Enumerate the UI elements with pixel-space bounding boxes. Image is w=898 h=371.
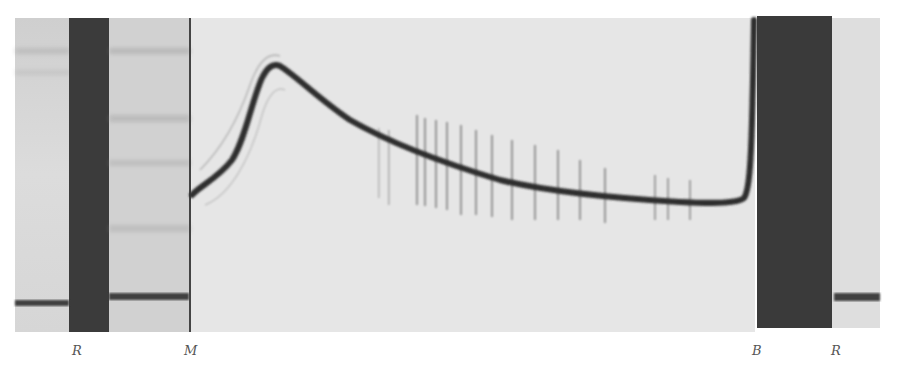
rm-level-line	[109, 293, 189, 300]
label-r-left: R	[72, 343, 82, 358]
right-strip	[832, 18, 880, 328]
label-b: B	[752, 343, 762, 358]
boundary-bar-r-left	[69, 18, 109, 332]
left-strip	[15, 18, 70, 332]
boundary-bar-b	[757, 16, 832, 328]
left-level-line	[15, 300, 69, 306]
panel-r-m	[109, 18, 190, 332]
plate-figure	[0, 0, 898, 371]
label-m: M	[184, 343, 197, 358]
right-level-line	[834, 293, 880, 301]
label-r-right: R	[831, 343, 841, 358]
m-boundary-line	[189, 18, 191, 332]
